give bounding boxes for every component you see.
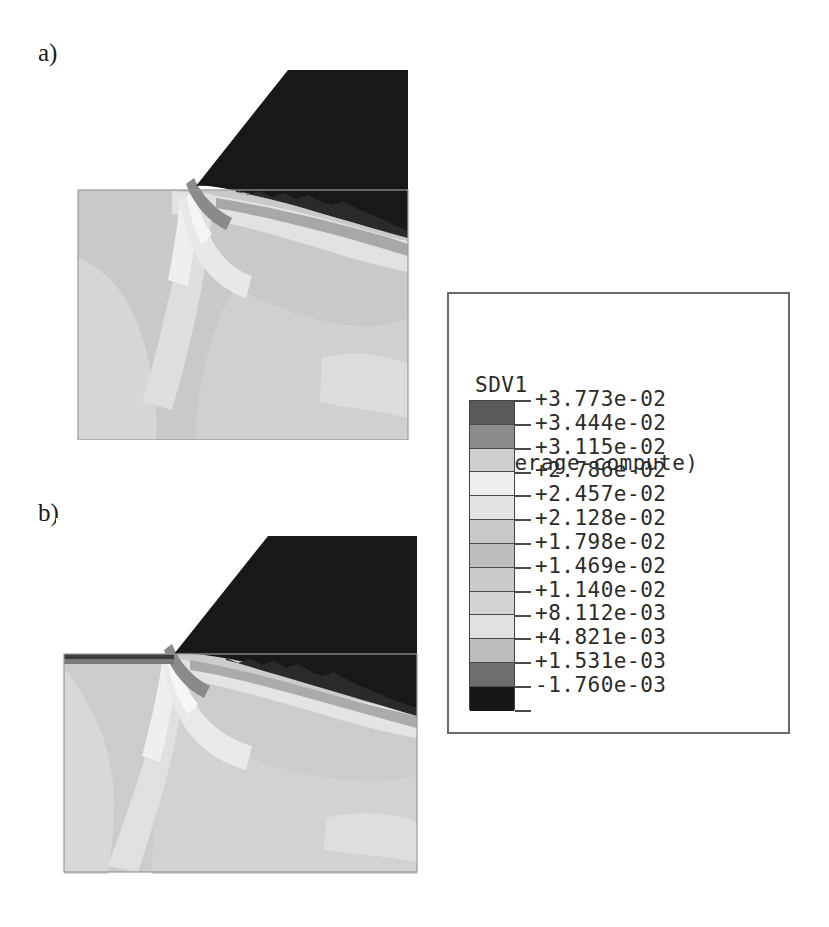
legend-swatch-7 [470, 568, 514, 592]
contour-image-b [56, 518, 419, 874]
legend-value-3: +2.786e-02 [535, 459, 666, 483]
legend-tick-1 [515, 424, 531, 426]
legend-swatch-6 [470, 544, 514, 568]
legend-value-5: +2.128e-02 [535, 507, 666, 531]
legend-value-9: +8.112e-03 [535, 602, 666, 626]
legend-swatch-9 [470, 615, 514, 639]
legend-swatch-11 [470, 663, 514, 687]
legend-swatch-4 [470, 496, 514, 520]
legend-swatch-0 [470, 401, 514, 425]
legend-tick-9 [515, 615, 531, 617]
legend-swatch-1 [470, 425, 514, 449]
legend-tick-6 [515, 543, 531, 545]
legend-value-12: -1.760e-03 [535, 674, 666, 698]
legend-value-8: +1.140e-02 [535, 579, 666, 603]
legend-tick-8 [515, 591, 531, 593]
legend-tick-13 [515, 710, 531, 712]
legend-tick-0 [515, 400, 531, 402]
contour-legend: SDV1 (Average-compute) +3.773e-02+3.444e… [447, 292, 790, 734]
legend-value-labels: +3.773e-02+3.444e-02+3.115e-02+2.786e-02… [535, 388, 666, 698]
legend-value-4: +2.457e-02 [535, 483, 666, 507]
legend-tick-4 [515, 495, 531, 497]
contour-image-a [76, 58, 410, 440]
contour-panel-a [76, 58, 410, 440]
legend-swatch-3 [470, 472, 514, 496]
legend-swatch-2 [470, 449, 514, 473]
legend-value-2: +3.115e-02 [535, 436, 666, 460]
legend-swatch-10 [470, 639, 514, 663]
legend-value-11: +1.531e-03 [535, 650, 666, 674]
legend-swatch-12 [470, 687, 514, 711]
figure-root: a) [0, 0, 829, 927]
legend-color-swatches [469, 400, 515, 710]
legend-tick-11 [515, 662, 531, 664]
legend-tick-2 [515, 448, 531, 450]
legend-tick-10 [515, 638, 531, 640]
panel-label-a: a) [38, 40, 57, 65]
legend-value-6: +1.798e-02 [535, 531, 666, 555]
legend-tick-5 [515, 519, 531, 521]
legend-value-7: +1.469e-02 [535, 555, 666, 579]
legend-swatch-8 [470, 592, 514, 616]
legend-value-1: +3.444e-02 [535, 412, 666, 436]
legend-swatch-5 [470, 520, 514, 544]
legend-value-10: +4.821e-03 [535, 626, 666, 650]
contour-panel-b [56, 518, 419, 874]
legend-value-0: +3.773e-02 [535, 388, 666, 412]
legend-tick-marks [515, 400, 531, 710]
legend-tick-7 [515, 567, 531, 569]
legend-tick-12 [515, 686, 531, 688]
legend-tick-3 [515, 472, 531, 474]
